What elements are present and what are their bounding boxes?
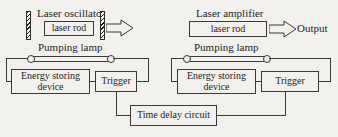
amplifier-trigger-label: Trigger bbox=[275, 76, 305, 87]
oscillator-esd-label-line1: Energy storing bbox=[21, 71, 80, 82]
oscillator-pumping-lamp-label: Pumping lamp bbox=[38, 42, 102, 53]
amplifier-esd-label-line1: Energy storing bbox=[187, 71, 246, 82]
oscillator-right-mirror bbox=[100, 11, 105, 40]
amplifier-pumping-lamp-tube bbox=[186, 56, 268, 62]
amplifier-output-label: Output bbox=[297, 23, 328, 34]
oscillator-trigger-box: Trigger bbox=[95, 71, 137, 92]
amplifier-esd-label-line2: device bbox=[203, 82, 229, 93]
oscillator-left-mirror bbox=[26, 11, 31, 40]
amplifier-laser-rod-box: laser rod bbox=[189, 21, 267, 37]
amp-lamp-left-lead-v bbox=[171, 58, 172, 81]
amp-trigger-to-delay-v bbox=[285, 92, 286, 115]
osc-lamp-right-lead-v bbox=[148, 58, 149, 81]
amp-esd-to-trigger-wire bbox=[256, 81, 261, 82]
oscillator-esd-label-line2: device bbox=[37, 82, 63, 93]
oscillator-pumping-lamp-tube bbox=[30, 56, 112, 62]
laser-amplifier-label: Laser amplifier bbox=[196, 8, 264, 19]
amp-lamp-right-lead-v bbox=[330, 58, 331, 81]
oscillator-laser-rod-box: laser rod bbox=[44, 21, 94, 36]
osc-lamp-right-lead-h bbox=[113, 58, 149, 59]
amp-lamp-left-lead-h bbox=[171, 58, 184, 59]
amplifier-laser-rod-label: laser rod bbox=[211, 24, 246, 35]
osc-lamp-right-lead-into-trigger bbox=[137, 81, 149, 82]
oscillator-beam-arrow bbox=[106, 19, 134, 37]
osc-lamp-left-lead-h bbox=[6, 58, 28, 59]
osc-esd-to-trigger-wire bbox=[90, 81, 95, 82]
oscillator-lamp-right-electrode bbox=[107, 55, 115, 63]
osc-trigger-to-delay-h bbox=[116, 115, 130, 116]
oscillator-lamp-left-electrode bbox=[27, 55, 35, 63]
amp-lamp-right-lead-h bbox=[269, 58, 331, 59]
amplifier-pumping-lamp-label: Pumping lamp bbox=[194, 42, 258, 53]
oscillator-trigger-label: Trigger bbox=[101, 76, 131, 87]
amplifier-lamp-right-electrode bbox=[263, 55, 271, 63]
amplifier-output-arrow bbox=[269, 20, 297, 38]
amp-lamp-right-lead-into-trigger bbox=[319, 81, 331, 82]
time-delay-circuit-box: Time delay circuit bbox=[130, 105, 217, 126]
amplifier-lamp-left-electrode bbox=[183, 55, 191, 63]
oscillator-laser-rod-label: laser rod bbox=[52, 23, 87, 34]
osc-lamp-left-lead-v bbox=[6, 58, 7, 81]
amp-trigger-to-delay-h bbox=[217, 115, 286, 116]
laser-system-block-diagram: Laser oscillator laser rod Pumping lamp … bbox=[0, 0, 338, 137]
osc-trigger-to-delay-v bbox=[116, 92, 117, 115]
amplifier-trigger-box: Trigger bbox=[261, 71, 319, 92]
oscillator-energy-storing-device-box: Energy storing device bbox=[11, 69, 90, 94]
time-delay-circuit-label: Time delay circuit bbox=[137, 110, 210, 121]
amplifier-energy-storing-device-box: Energy storing device bbox=[177, 69, 256, 94]
laser-oscillator-label: Laser oscillator bbox=[37, 8, 105, 19]
